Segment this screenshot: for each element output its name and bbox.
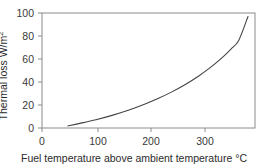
y-tick-label-80: 80 bbox=[6, 31, 34, 42]
y-axis-title-base: Thermal loss W/m bbox=[0, 36, 9, 121]
x-tick-label-0: 0 bbox=[39, 136, 45, 147]
x-tick-label-300: 300 bbox=[196, 136, 214, 147]
y-axis-ticks bbox=[38, 13, 42, 128]
y-axis-title-exponent: 2 bbox=[0, 32, 5, 36]
x-tick-label-200: 200 bbox=[142, 136, 160, 147]
thermal-loss-curve bbox=[68, 16, 248, 125]
y-axis-title: Thermal loss W/m2 bbox=[0, 32, 9, 121]
x-axis-ticks bbox=[42, 128, 205, 132]
y-tick-label-60: 60 bbox=[6, 54, 34, 65]
x-axis-title: Fuel temperature above ambient temperatu… bbox=[21, 152, 247, 164]
y-tick-label-0: 0 bbox=[6, 123, 34, 134]
y-tick-label-20: 20 bbox=[6, 100, 34, 111]
chart-figure: 0 20 40 60 80 100 0 100 200 300 Fuel tem… bbox=[0, 0, 268, 168]
y-tick-label-100: 100 bbox=[6, 8, 34, 19]
plot-frame-border bbox=[42, 13, 255, 128]
y-tick-label-40: 40 bbox=[6, 77, 34, 88]
x-tick-label-100: 100 bbox=[89, 136, 107, 147]
